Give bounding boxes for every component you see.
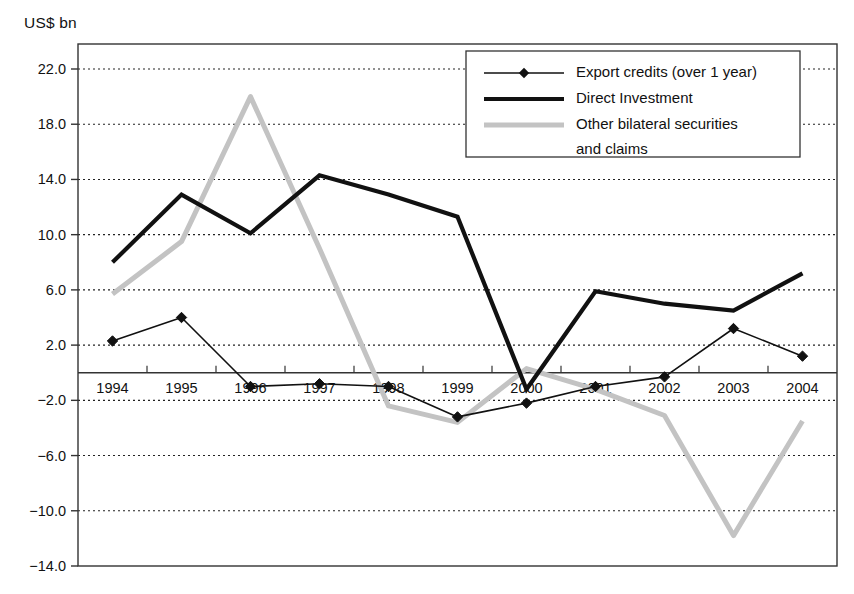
legend-item-label: and claims: [576, 140, 648, 157]
legend-box: Export credits (over 1 year)Direct Inves…: [466, 51, 800, 157]
series-line-direct-investment: [113, 175, 803, 389]
y-tick-label: −2.0: [37, 392, 66, 408]
y-tick-labels-group: 22.018.014.010.06.02.0−2.0−6.0−10.0−14.0: [29, 61, 66, 574]
line-chart: US$ bn 22.018.014.010.06.02.0−2.0−6.0−10…: [0, 0, 854, 594]
x-tick-label: 1999: [441, 380, 473, 396]
data-point-marker: [728, 323, 738, 333]
x-tick-label: 1994: [96, 380, 128, 396]
y-tick-label: 18.0: [38, 116, 66, 132]
y-tick-label: 10.0: [38, 227, 66, 243]
legend-item-label: Direct Investment: [576, 89, 694, 106]
data-series-group: [107, 97, 807, 536]
y-tick-label: −10.0: [29, 503, 66, 519]
x-tick-label: 1995: [165, 380, 197, 396]
y-tick-label: 6.0: [46, 282, 66, 298]
series-line-other-bilateral: [113, 97, 803, 536]
y-tick-label: −6.0: [37, 448, 66, 464]
x-tick-label: 2003: [717, 380, 749, 396]
y-tick-label: −14.0: [29, 558, 66, 574]
y-tick-label: 22.0: [38, 61, 66, 77]
x-tick-label: 2004: [786, 380, 818, 396]
legend-item-label: Export credits (over 1 year): [576, 63, 757, 80]
chart-canvas: 22.018.014.010.06.02.0−2.0−6.0−10.0−14.0…: [0, 0, 854, 594]
data-point-marker: [797, 351, 807, 361]
legend-item-label: Other bilateral securities: [576, 115, 738, 132]
x-tick-labels-group: 1994199519961997199819992000200120022003…: [96, 380, 818, 396]
y-tick-label: 2.0: [46, 337, 66, 353]
y-tick-label: 14.0: [38, 171, 66, 187]
data-point-marker: [521, 398, 531, 408]
